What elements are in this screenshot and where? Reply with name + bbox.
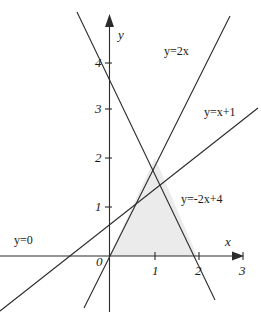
x-tick-label-3: 3: [239, 264, 246, 277]
origin-tick-label: 0: [96, 255, 103, 268]
x-axis-arrowhead: [232, 252, 244, 261]
y-tick-label-1: 1: [95, 200, 102, 213]
line-y-equals-x-plus-1: [0, 108, 258, 311]
y-axis-arrowhead: [105, 14, 114, 27]
y-axis-label: y: [118, 28, 124, 41]
y-tick-label-3: 3: [95, 102, 102, 115]
graph-figure: y x 0 1 2 3 4 1 2 3 y=2x y=x+1 y=-2x+4 y…: [0, 0, 261, 312]
line-label-y-equals-x-plus-1: y=x+1: [204, 106, 236, 118]
x-tick-label-2: 2: [195, 264, 202, 277]
line-label-y-equals-2x: y=2x: [164, 45, 189, 57]
y-tick-label-4: 4: [95, 56, 102, 69]
line-label-y-equals-minus-2x-plus-4: y=-2x+4: [181, 193, 223, 205]
plot-canvas: [0, 0, 261, 312]
feasible-region-shading: [110, 158, 198, 256]
line-label-y-equals-0: y=0: [14, 234, 33, 246]
x-tick-label-1: 1: [152, 264, 159, 277]
x-axis-label: x: [225, 235, 231, 248]
y-tick-label-2: 2: [95, 151, 102, 164]
